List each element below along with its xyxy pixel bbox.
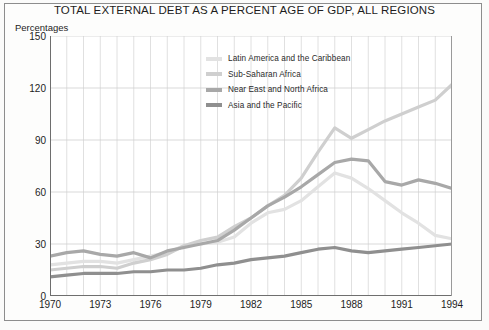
chart-legend: Latin America and the CaribbeanSub-Sahar… (206, 52, 350, 114)
y-tick-label: 150 (6, 31, 46, 42)
y-axis-ticks: 0306090120150 (0, 36, 46, 296)
x-tick-label: 1985 (290, 299, 312, 310)
legend-label: Sub-Saharan Africa (228, 70, 301, 79)
legend-item[interactable]: Sub-Saharan Africa (206, 68, 350, 81)
legend-swatch-icon (206, 103, 222, 107)
x-tick-label: 1991 (391, 299, 413, 310)
y-tick-label: 90 (6, 135, 46, 146)
legend-swatch-icon (206, 72, 222, 76)
x-tick-label: 1979 (190, 299, 212, 310)
legend-item[interactable]: Near East and North Africa (206, 83, 350, 96)
x-tick-label: 1976 (139, 299, 161, 310)
x-tick-label: 1973 (89, 299, 111, 310)
legend-label: Latin America and the Caribbean (228, 54, 350, 63)
chart-title: TOTAL EXTERNAL DEBT AS A PERCENT AGE OF … (0, 4, 489, 16)
y-tick-label: 120 (6, 83, 46, 94)
y-tick-label: 30 (6, 239, 46, 250)
legend-swatch-icon (206, 88, 222, 92)
x-tick-label: 1988 (340, 299, 362, 310)
legend-label: Near East and North Africa (228, 85, 328, 94)
legend-label: Asia and the Pacific (228, 101, 302, 110)
x-tick-label: 1994 (441, 299, 463, 310)
x-tick-label: 1970 (39, 299, 61, 310)
legend-item[interactable]: Asia and the Pacific (206, 99, 350, 112)
chart-page: TOTAL EXTERNAL DEBT AS A PERCENT AGE OF … (0, 0, 489, 330)
legend-swatch-icon (206, 57, 222, 61)
y-tick-label: 60 (6, 187, 46, 198)
x-axis-ticks: 197019731976197919821985198819911994 (50, 299, 452, 315)
x-tick-label: 1982 (240, 299, 262, 310)
legend-item[interactable]: Latin America and the Caribbean (206, 52, 350, 65)
